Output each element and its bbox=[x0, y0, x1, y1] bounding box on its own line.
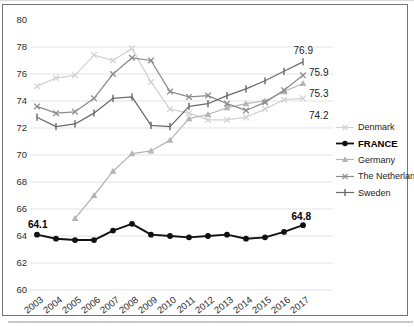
legend-marker-the-netherlands bbox=[336, 171, 354, 182]
gridlines bbox=[30, 47, 333, 290]
legend-label-the-netherlands: The Netherlands bbox=[358, 171, 414, 181]
legend-label-germany: Germany bbox=[358, 155, 395, 165]
x-tick-2008: 2008 bbox=[117, 294, 140, 316]
y-tick-68: 68 bbox=[16, 176, 27, 187]
y-tick-64: 64 bbox=[16, 230, 27, 241]
x-tick-2011: 2011 bbox=[174, 294, 197, 315]
x-tick-2004: 2004 bbox=[41, 294, 64, 316]
legend-label-france: FRANCE bbox=[358, 138, 398, 149]
y-tick-62: 62 bbox=[16, 257, 27, 268]
series-the-netherlands bbox=[34, 55, 306, 116]
x-tick-2013: 2013 bbox=[212, 294, 235, 316]
y-tick-80: 80 bbox=[16, 14, 27, 25]
y-tick-72: 72 bbox=[16, 122, 27, 133]
annotation-64-1: 64.1 bbox=[28, 219, 48, 230]
x-tick-2014: 2014 bbox=[231, 294, 254, 316]
series-france bbox=[34, 221, 306, 243]
annotation-75-9: 75.9 bbox=[309, 67, 329, 78]
y-tick-76: 76 bbox=[16, 68, 27, 79]
chart-page: 8078767472706866646260200320042005200620… bbox=[0, 0, 414, 327]
y-tick-74: 74 bbox=[16, 95, 27, 106]
y-tick-60: 60 bbox=[16, 284, 27, 295]
chart-legend: DenmarkFRANCEGermanyThe NetherlandsSwede… bbox=[336, 119, 414, 201]
x-axis-tick-labels: 2003200420052006200720082009201020112012… bbox=[22, 294, 311, 316]
x-tick-2005: 2005 bbox=[60, 294, 83, 316]
legend-marker-denmark bbox=[336, 122, 354, 133]
annotation-76-9: 76.9 bbox=[294, 45, 314, 56]
x-tick-2010: 2010 bbox=[155, 294, 178, 316]
x-tick-2003: 2003 bbox=[22, 294, 45, 316]
x-tick-2017: 2017 bbox=[288, 294, 311, 316]
y-tick-70: 70 bbox=[16, 149, 27, 160]
legend-marker-france bbox=[336, 138, 354, 149]
legend-item-france: FRANCE bbox=[336, 135, 414, 151]
x-tick-2006: 2006 bbox=[79, 294, 102, 316]
y-tick-66: 66 bbox=[16, 203, 27, 214]
x-tick-2009: 2009 bbox=[136, 294, 159, 316]
annotation-64-8: 64.8 bbox=[292, 211, 312, 222]
legend-item-the-netherlands: The Netherlands bbox=[336, 168, 414, 184]
x-tick-2016: 2016 bbox=[269, 294, 292, 316]
legend-label-sweden: Sweden bbox=[358, 188, 391, 198]
legend-item-germany: Germany bbox=[336, 152, 414, 168]
legend-item-denmark: Denmark bbox=[336, 119, 414, 135]
annotation-75-3: 75.3 bbox=[309, 88, 329, 99]
series-sweden bbox=[37, 58, 303, 130]
y-tick-78: 78 bbox=[16, 41, 27, 52]
x-tick-2007: 2007 bbox=[98, 294, 121, 316]
legend-item-sweden: Sweden bbox=[336, 185, 414, 201]
x-tick-2012: 2012 bbox=[193, 294, 216, 316]
y-axis-tick-labels: 8078767472706866646260 bbox=[16, 14, 27, 295]
annotation-74-2: 74.2 bbox=[309, 110, 329, 121]
x-tick-2015: 2015 bbox=[250, 294, 273, 316]
legend-marker-germany bbox=[336, 154, 354, 165]
legend-label-denmark: Denmark bbox=[358, 122, 395, 132]
legend-marker-sweden bbox=[336, 187, 354, 198]
